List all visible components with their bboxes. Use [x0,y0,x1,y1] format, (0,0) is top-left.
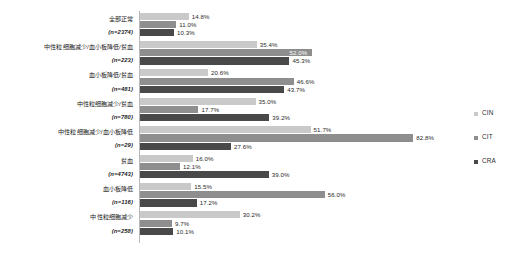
bar-value-label: 17.7% [201,106,219,113]
category-label-count: (n=223) [0,56,133,64]
bar-value-label: 12.1% [183,163,201,170]
bar-value-label: 20.6% [211,69,229,76]
bar-cin [140,211,240,218]
bar-value-label: 35.0% [259,98,277,105]
bar-value-label: 30.2% [243,211,261,218]
bar-cin [140,98,256,105]
bar-cit [140,106,198,113]
category-label-count: (n=481) [0,85,133,93]
bar-cra [140,143,231,150]
bar-cit [140,191,325,198]
bar-cin [140,183,191,190]
category-label-count: (n=2374) [0,28,133,36]
bar-cit [140,134,413,141]
bar-value-label: 14.8% [192,13,210,20]
bar-cin [140,126,311,133]
bar-cit [140,49,312,56]
category-label-count: (n=29) [0,141,133,149]
category-label: 中性粒细胞减少(n=258) [0,213,133,235]
category-label-name: 全部正常 [0,15,133,23]
bar-cra [140,228,173,235]
bar-value-label: 35.4% [260,41,278,48]
bar-cin [140,13,189,20]
category-label: 贫血(n=4743) [0,157,133,179]
category-label-name: 中性粒细胞减少 [0,213,133,221]
bar-cra [140,29,174,36]
grouped-bar-chart: 全部正常(n=2374)14.8%11.0%10.3%中性粒细胞减少/血小板降低… [0,0,530,254]
bar-value-label: 45.3% [292,57,310,64]
bar-value-label: 17.2% [200,199,218,206]
bar-cit [140,220,172,227]
legend-label: CIT [482,133,493,140]
bar-cra [140,86,284,93]
legend-swatch-icon [474,160,478,164]
category-label-count: (n=116) [0,198,133,206]
bar-value-label: 11.0% [179,21,196,28]
category-label-name: 中性粒细胞减少/贫血 [0,100,133,108]
bar-cra [140,114,269,121]
bar-cin [140,155,193,162]
legend-label: CIN [482,109,493,116]
bar-cra [140,171,269,178]
category-label-count: (n=780) [0,113,133,121]
bar-value-label: 82.8% [416,134,434,141]
bar-value-label: 27.6% [234,143,252,150]
category-label: 全部正常(n=2374) [0,15,133,37]
bar-cra [140,57,289,64]
bar-value-label: 10.1% [176,228,194,235]
bar-value-label: 43.7% [287,86,305,93]
bar-value-label: 16.0% [196,155,214,162]
legend-swatch-icon [474,112,478,116]
category-label: 血小板降低/贫血(n=481) [0,71,133,93]
bar-cit [140,21,176,28]
bar-value-label: 15.5% [194,183,212,190]
category-label: 血小板降低(n=116) [0,185,133,207]
category-label-name: 中性粒细胞减少/血小板降低/贫血 [0,43,133,51]
category-label-count: (n=258) [0,227,133,235]
bar-value-label: 10.3% [177,29,195,36]
bar-value-label: 39.0% [272,171,290,178]
bar-cin [140,69,208,76]
bar-value-label: 46.6% [297,78,315,85]
category-label: 中性粒细胞减少/贫血(n=780) [0,100,133,122]
plot-area: 全部正常(n=2374)14.8%11.0%10.3%中性粒细胞减少/血小板降低… [0,0,530,254]
legend-swatch-icon [474,136,478,140]
category-label-name: 血小板降低 [0,185,133,193]
bar-cit [140,78,294,85]
category-label-name: 血小板降低/贫血 [0,71,133,79]
category-label-count: (n=4743) [0,170,133,178]
category-label-name: 中性粒细胞减少/血小板降低 [0,128,133,136]
category-label: 中性粒细胞减少/血小板降低(n=29) [0,128,133,150]
bar-cit [140,163,180,170]
bar-cin [140,41,257,48]
bar-value-label: 9.7% [175,220,189,227]
bar-value-label: 51.7% [314,126,332,133]
category-label-name: 贫血 [0,157,133,165]
bar-value-label: 56.0% [328,191,346,198]
bar-value-label: 52.0% [290,49,308,56]
bar-cra [140,199,197,206]
bar-value-label: 39.2% [272,114,290,121]
category-label: 中性粒细胞减少/血小板降低/贫血(n=223) [0,43,133,65]
legend-label: CRA [482,157,496,164]
